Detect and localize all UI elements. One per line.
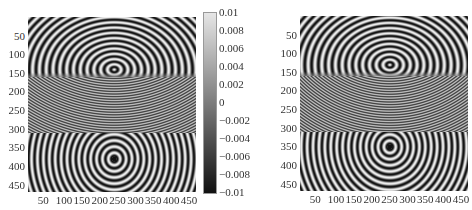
y-tick-label: 450 <box>273 179 297 190</box>
colorbar-tick-label: 0.002 <box>219 79 244 90</box>
x-tick-label: 400 <box>435 194 452 205</box>
y-tick-label: 250 <box>273 104 297 115</box>
colorbar-tick-label: −0.01 <box>219 187 244 198</box>
colorbar-tick-label: −0.004 <box>219 133 250 144</box>
y-tick-label: 400 <box>1 161 25 172</box>
x-tick-label: 200 <box>363 194 380 205</box>
x-tick-label: 450 <box>453 194 470 205</box>
colorbar-tick-label: −0.006 <box>219 151 250 162</box>
y-tick-label: 350 <box>273 141 297 152</box>
colorbar-tick-label: 0.008 <box>219 25 244 36</box>
x-tick-label: 250 <box>109 195 126 206</box>
x-tick-label: 350 <box>145 195 162 206</box>
x-tick-label: 100 <box>328 194 345 205</box>
y-tick-label: 150 <box>273 67 297 78</box>
x-tick-label: 50 <box>38 195 49 206</box>
colorbar-tick-label: 0 <box>219 97 225 108</box>
y-tick-label: 200 <box>273 85 297 96</box>
x-tick-label: 50 <box>310 194 321 205</box>
x-tick-label: 300 <box>399 194 416 205</box>
y-tick-label: 50 <box>1 31 25 42</box>
y-tick-label: 300 <box>273 123 297 134</box>
y-tick-label: 200 <box>1 86 25 97</box>
x-tick-label: 150 <box>74 195 91 206</box>
x-tick-label: 250 <box>381 194 398 205</box>
y-tick-label: 250 <box>1 105 25 116</box>
colorbar-tick-label: 0.01 <box>219 7 238 18</box>
x-tick-label: 300 <box>127 195 144 206</box>
wavefield-plot-right <box>300 16 468 191</box>
x-tick-label: 350 <box>417 194 434 205</box>
y-tick-label: 150 <box>1 68 25 79</box>
colorbar-tick-label: −0.008 <box>219 169 250 180</box>
x-tick-label: 200 <box>91 195 108 206</box>
colorbar-tick-label: 0.006 <box>219 43 244 54</box>
y-tick-label: 350 <box>1 142 25 153</box>
x-tick-label: 400 <box>163 195 180 206</box>
y-tick-label: 50 <box>273 30 297 41</box>
y-tick-label: 100 <box>1 49 25 60</box>
y-tick-label: 400 <box>273 160 297 171</box>
x-tick-label: 450 <box>181 195 198 206</box>
x-tick-label: 150 <box>346 194 363 205</box>
colorbar-tick-label: −0.002 <box>219 115 250 126</box>
y-tick-label: 450 <box>1 180 25 191</box>
colorbar-tick-label: 0.004 <box>219 61 244 72</box>
y-tick-label: 300 <box>1 124 25 135</box>
y-tick-label: 100 <box>273 48 297 59</box>
wavefield-plot-left <box>28 17 196 192</box>
x-tick-label: 100 <box>56 195 73 206</box>
colorbar-gradient <box>203 12 217 194</box>
